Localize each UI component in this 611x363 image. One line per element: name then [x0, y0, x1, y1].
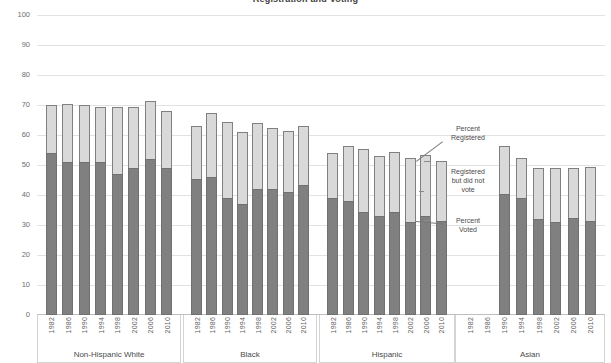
bar-segment-percent-voted	[62, 162, 73, 315]
bar-hispanic-1994	[374, 156, 385, 315]
annotation-registered-not-voted: Registered but did not vote	[441, 168, 495, 194]
x-axis-tick-label: 1998	[536, 317, 543, 333]
gridline	[37, 45, 605, 46]
bar-non-hispanic-white-2010	[161, 111, 172, 315]
x-axis-tick-label: 2002	[553, 317, 560, 333]
bar-hispanic-1986	[343, 146, 354, 316]
category-group-hispanic: 19821986199019941998200220062010Hispanic	[319, 315, 455, 363]
category-group-label: Black	[184, 350, 316, 359]
bar-segment-registered-not-voted	[145, 101, 156, 160]
x-axis-tick-label: 2010	[164, 317, 171, 333]
bar-segment-percent-voted	[568, 218, 579, 316]
bar-segment-percent-voted	[516, 198, 527, 315]
bar-hispanic-1990	[358, 149, 369, 316]
bar-segment-percent-voted	[95, 162, 106, 315]
bar-segment-registered-not-voted	[46, 105, 57, 153]
x-axis-tick-label: 2010	[438, 317, 445, 333]
y-axis-tick-label: 100	[0, 11, 30, 19]
bar-segment-registered-not-voted	[267, 128, 278, 190]
annotation-percent-voted: Percent Voted	[444, 217, 492, 235]
bar-segment-percent-voted	[222, 198, 233, 315]
bar-segment-registered-not-voted	[533, 168, 544, 219]
bar-segment-registered-not-voted	[252, 123, 263, 189]
bar-segment-registered-not-voted	[191, 126, 202, 179]
bar-segment-registered-not-voted	[568, 168, 579, 218]
y-axis-tick-label: 70	[0, 101, 30, 109]
bar-segment-percent-voted	[252, 189, 263, 315]
bar-asian-1990	[499, 146, 510, 316]
x-axis-tick-label: 1982	[194, 317, 201, 333]
bar-segment-percent-voted	[389, 212, 400, 316]
bar-segment-percent-voted	[237, 204, 248, 315]
bar-segment-registered-not-voted	[499, 146, 510, 194]
bar-segment-percent-voted	[145, 159, 156, 315]
y-axis-tick-label: 90	[0, 41, 30, 49]
bar-segment-percent-voted	[283, 192, 294, 315]
bar-black-1994	[237, 132, 248, 315]
y-axis-tick-label: 30	[0, 221, 30, 229]
category-group-label: Hispanic	[320, 350, 454, 359]
bar-segment-percent-voted	[436, 221, 447, 316]
x-axis-tick-label: 2006	[570, 317, 577, 333]
x-axis-tick-label: 1982	[48, 317, 55, 333]
x-axis-tick-label: 1982	[467, 317, 474, 333]
bar-segment-percent-voted	[374, 216, 385, 315]
bar-segment-registered-not-voted	[206, 113, 217, 178]
category-group-label: Non-Hispanic White	[38, 350, 180, 359]
x-axis-tick-label: 1998	[392, 317, 399, 333]
bar-segment-percent-voted	[112, 174, 123, 315]
bar-black-1982	[191, 126, 202, 315]
bar-black-1998	[252, 123, 263, 315]
bar-black-1986	[206, 113, 217, 316]
gridline	[37, 15, 605, 16]
bar-segment-percent-voted	[206, 177, 217, 315]
category-year-labels: 19821986199019941998200220062010	[456, 315, 604, 346]
x-axis-tick-label: 2006	[285, 317, 292, 333]
bar-non-hispanic-white-1994	[95, 107, 106, 316]
bar-segment-percent-voted	[298, 185, 309, 316]
bar-segment-percent-voted	[358, 212, 369, 316]
bar-segment-registered-not-voted	[358, 149, 369, 212]
x-axis-tick-label: 1986	[484, 317, 491, 333]
category-group-non-hispanic-white: 19821986199019941998200220062010Non-Hisp…	[37, 315, 181, 363]
x-axis-tick-label: 1986	[65, 317, 72, 333]
category-year-labels: 19821986199019941998200220062010	[38, 315, 180, 346]
bar-asian-2002	[550, 168, 561, 315]
bar-hispanic-1998	[389, 152, 400, 316]
x-axis-tick-label: 1990	[81, 317, 88, 333]
bar-segment-percent-voted	[161, 168, 172, 315]
bar-black-1990	[222, 122, 233, 316]
bar-black-2010	[298, 126, 309, 315]
bar-segment-registered-not-voted	[128, 107, 139, 169]
x-axis-tick-label: 1994	[376, 317, 383, 333]
bar-segment-percent-voted	[267, 189, 278, 315]
bar-black-2006	[283, 131, 294, 316]
annotation-bracket	[424, 161, 431, 221]
bar-non-hispanic-white-2002	[128, 107, 139, 316]
x-axis-tick-label: 1998	[114, 317, 121, 333]
bar-segment-percent-voted	[343, 201, 354, 315]
y-axis-tick-label: 50	[0, 161, 30, 169]
y-axis-tick-label: 60	[0, 131, 30, 139]
x-axis-tick-label: 1994	[518, 317, 525, 333]
bar-segment-registered-not-voted	[237, 132, 248, 204]
annotation-percent-registered: Percent Registered	[441, 125, 495, 143]
bar-segment-percent-voted	[550, 222, 561, 315]
bar-segment-registered-not-voted	[95, 107, 106, 163]
y-axis-tick-label: 20	[0, 251, 30, 259]
bar-segment-percent-voted	[327, 198, 338, 315]
bar-hispanic-1982	[327, 153, 338, 315]
bar-segment-registered-not-voted	[298, 126, 309, 185]
bar-segment-registered-not-voted	[327, 153, 338, 198]
bar-segment-registered-not-voted	[62, 104, 73, 163]
x-axis-tick-label: 2010	[300, 317, 307, 333]
bar-non-hispanic-white-1986	[62, 104, 73, 316]
bar-asian-2010	[585, 167, 596, 316]
x-axis-tick-label: 2010	[587, 317, 594, 333]
x-axis-tick-label: 2006	[423, 317, 430, 333]
x-axis-tick-label: 1990	[224, 317, 231, 333]
bar-segment-registered-not-voted	[222, 122, 233, 199]
bar-hispanic-2002	[405, 158, 416, 316]
bar-segment-registered-not-voted	[550, 168, 561, 222]
x-axis-tick-label: 1994	[239, 317, 246, 333]
